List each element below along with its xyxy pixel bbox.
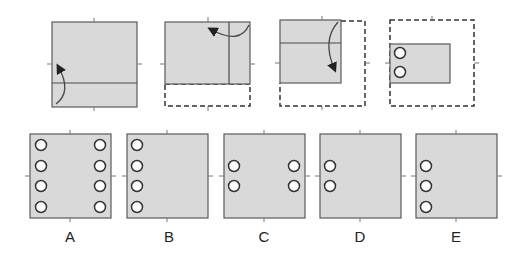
fold-step-1	[47, 18, 142, 111]
option-e[interactable]	[411, 130, 502, 222]
fold-step-2	[160, 17, 255, 111]
hole-icon	[395, 67, 406, 78]
option-label-e: E	[441, 228, 471, 245]
fold-step-3	[275, 16, 370, 110]
paper-folding-diagram	[0, 0, 530, 259]
option-a[interactable]	[25, 130, 116, 222]
hole-icon	[395, 48, 406, 59]
option-label-a: A	[55, 228, 85, 245]
option-label-b: B	[154, 228, 184, 245]
option-c[interactable]	[219, 130, 310, 222]
dashed-outline	[165, 84, 250, 106]
option-label-c: C	[249, 228, 279, 245]
option-label-d: D	[345, 228, 375, 245]
option-b[interactable]	[122, 130, 213, 222]
fold-step-4	[385, 16, 479, 110]
option-d[interactable]	[315, 130, 406, 222]
